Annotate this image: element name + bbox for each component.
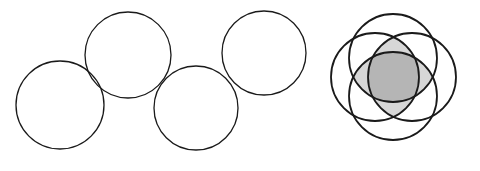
circles-figure (0, 0, 480, 171)
figure-root (0, 0, 480, 171)
